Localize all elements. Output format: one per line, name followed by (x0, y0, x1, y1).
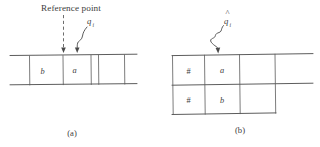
panel-b-pointer-arrowhead (216, 48, 221, 54)
panel-a-caption: (a) (67, 128, 77, 138)
panel-b-divider-left-edge (173, 56, 174, 115)
panel-a-pointer-label-subscript: i (93, 22, 95, 28)
panel-a-group: Reference point q i b a (a) (10, 3, 137, 138)
panel-b-cell-bottom-1: b (220, 96, 224, 105)
panel-b-caption: (b) (235, 125, 245, 135)
panel-b-grid-middle-rail (172, 83, 313, 85)
panel-a-pointer-arrowhead (75, 47, 80, 53)
reference-point-label: Reference point (41, 3, 101, 13)
panel-b-cell-top-0: # (186, 67, 191, 76)
panel-b-grid-top-rail (172, 54, 313, 56)
panel-a-cell-a: a (72, 66, 76, 75)
reference-point-arrowhead (61, 47, 66, 53)
panel-a-tape-bottom-rail (10, 84, 137, 85)
panel-b-pointer-arrow-curve (211, 26, 224, 49)
panel-b-group: ^ q i # a # b (b) (172, 8, 313, 136)
panel-b-divider-3 (275, 54, 276, 113)
panel-b-grid-bottom-rail (172, 113, 276, 115)
panel-a-tape-top-rail (10, 54, 137, 55)
panel-b-pointer-label-base: q (224, 16, 229, 26)
panel-b-divider-1 (205, 55, 206, 114)
panel-a-cell-b: b (40, 67, 44, 76)
panel-a-pointer-label-base: q (87, 16, 92, 26)
panel-b-cell-top-1: a (220, 66, 224, 75)
panel-b-cell-bottom-0: # (186, 96, 191, 105)
panel-a-pointer-arrow-curve (77, 27, 87, 48)
panel-b-pointer-label-subscript: i (230, 22, 232, 28)
panel-b-divider-2 (240, 55, 241, 114)
figure-canvas: Reference point q i b a (a) (0, 0, 320, 147)
figure-container: Reference point q i b a (a) (0, 0, 320, 147)
